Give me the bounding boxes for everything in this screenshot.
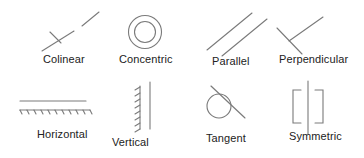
- colinear-label: Colinear: [43, 53, 85, 65]
- concentric-label: Concentric: [119, 53, 173, 65]
- vertical-label: Vertical: [112, 136, 149, 148]
- colinear-icon: [40, 10, 104, 52]
- vertical-icon: [130, 81, 154, 131]
- parallel-icon: [205, 12, 269, 58]
- symmetric-icon: [288, 80, 328, 136]
- tangent-label: Tangent: [206, 132, 246, 144]
- symmetric-label: Symmetric: [289, 130, 342, 142]
- concentric-icon: [127, 14, 163, 50]
- perpendicular-label: Perpendicular: [279, 53, 348, 65]
- parallel-label: Parallel: [212, 55, 250, 67]
- horizontal-icon: [18, 99, 94, 115]
- tangent-icon: [205, 83, 249, 121]
- horizontal-label: Horizontal: [37, 128, 88, 140]
- perpendicular-icon: [275, 14, 339, 56]
